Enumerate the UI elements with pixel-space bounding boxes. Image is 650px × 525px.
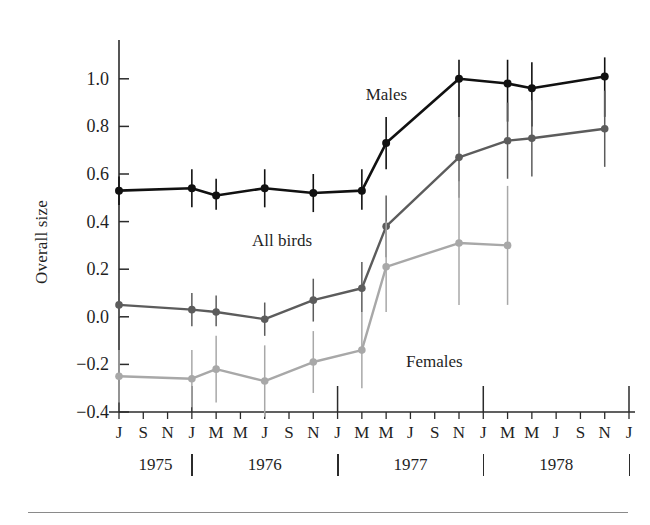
data-point: [382, 263, 390, 271]
data-point: [261, 184, 269, 192]
data-point: [528, 84, 536, 92]
figure-panel: Overall size 1.00.80.60.40.20.0−0.2−0.4 …: [0, 0, 650, 525]
data-point: [455, 239, 463, 247]
data-point: [115, 301, 123, 309]
data-point: [455, 154, 463, 162]
data-point: [601, 125, 609, 133]
series-all-birds: [115, 91, 608, 336]
data-point: [188, 375, 196, 383]
data-point: [601, 72, 609, 80]
data-point: [504, 242, 512, 250]
data-point: [212, 191, 220, 199]
data-point: [309, 296, 317, 304]
data-point: [261, 315, 269, 323]
data-point: [504, 80, 512, 88]
data-point: [212, 365, 220, 373]
data-point: [188, 306, 196, 314]
data-point: [115, 373, 123, 381]
plot-canvas: [0, 0, 650, 525]
data-point: [358, 346, 366, 354]
data-point: [382, 139, 390, 147]
figure-bottom-rule: [28, 512, 628, 513]
data-point: [358, 187, 366, 195]
data-point: [309, 189, 317, 197]
data-point: [309, 358, 317, 366]
data-point: [504, 137, 512, 145]
data-point: [358, 284, 366, 292]
leader-males: [466, 68, 487, 88]
data-point: [455, 75, 463, 83]
data-point: [528, 135, 536, 143]
data-point: [188, 184, 196, 192]
data-point: [261, 377, 269, 385]
series-males: [115, 57, 609, 212]
data-point: [212, 308, 220, 316]
data-point: [115, 187, 123, 195]
